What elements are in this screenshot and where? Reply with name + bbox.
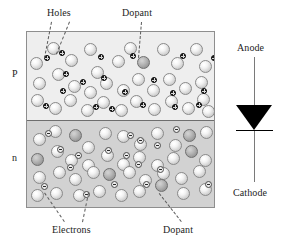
diode-cathode-wire [254,131,255,182]
holes-leader-2 [56,22,70,54]
electrons-leader-2 [82,193,89,222]
electrons-leader-1 [44,192,65,222]
dopant-top-leader [138,22,142,58]
diode-anode-wire [254,57,255,106]
holes-leader-1 [44,22,52,58]
dopant-bottom-leader [159,193,182,222]
diode-triangle-icon [236,105,272,130]
figure-canvas: Holes Dopant Electrons Dopant P n Anode … [0,0,288,242]
